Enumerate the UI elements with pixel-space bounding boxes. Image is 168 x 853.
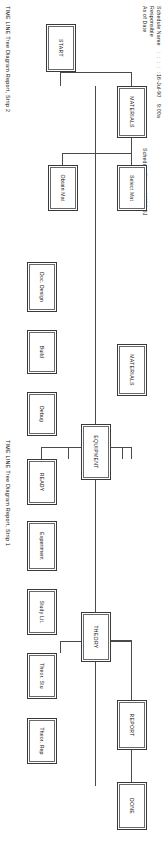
node-debug-label: Debug — [39, 406, 45, 422]
node-experiment[interactable]: Experiment — [27, 521, 57, 571]
connector-doc-design — [41, 447, 42, 459]
node-report-label: REPORT — [129, 713, 135, 736]
caption-strip-2: TIME LINE Tree Diagram Report, Strip 2 — [5, 6, 11, 112]
node-debug[interactable]: Debug — [27, 392, 57, 436]
connector-theor-rep — [60, 641, 61, 653]
node-theory-label: THEORY — [93, 625, 99, 648]
node-theor-rep[interactable]: Theor. Rep — [27, 718, 57, 764]
connector-materials-mid — [95, 396, 96, 410]
node-equipment-label: EQUIPMENT — [93, 435, 99, 468]
header-as-of-time-value: 9:00a — [155, 104, 162, 118]
connector-ready — [122, 447, 123, 459]
node-ready[interactable]: READY — [27, 459, 57, 505]
header-label-schedule-name: Schedule Name — [155, 6, 162, 46]
node-experiment-label: Experiment — [39, 532, 45, 560]
node-study-lit[interactable]: Study Lit. — [27, 589, 57, 635]
node-doc-design[interactable]: Doc. Design — [27, 262, 57, 312]
node-theory[interactable]: THEORY — [81, 612, 111, 662]
connector-materials-top-stub — [131, 72, 132, 86]
node-equipment[interactable]: EQUIPMENT — [81, 424, 111, 480]
header-label-responsible: Responsible — [148, 6, 155, 46]
connector-top-row-spine — [131, 640, 132, 686]
node-done[interactable]: DONE — [117, 782, 147, 830]
node-start[interactable]: START — [46, 24, 76, 72]
node-materials-mid-label: MATERIALS — [129, 354, 135, 386]
node-done-label: DONE — [129, 798, 135, 814]
header-dot-leaders: : : : : : — [155, 52, 162, 74]
connector-done — [131, 768, 132, 782]
node-materials-mid[interactable]: MATERIALS — [117, 344, 147, 396]
node-obtain-mat-label: Obtain Mat — [60, 175, 66, 202]
node-select-mat[interactable]: Select Mat — [117, 165, 147, 211]
node-study-lit-label: Study Lit. — [39, 600, 45, 623]
connector-theory — [95, 598, 96, 612]
connector-experiment — [131, 447, 132, 459]
node-theor-stu-label: Theor. Stu — [39, 663, 45, 689]
node-ready-label: READY — [39, 473, 45, 492]
node-start-label: START — [58, 39, 64, 57]
node-doc-design-label: Doc. Design — [39, 272, 45, 302]
connector-build — [68, 447, 69, 459]
node-build-label: Build — [39, 346, 45, 358]
connector-equipment — [95, 410, 96, 424]
node-select-mat-label: Select Mat — [129, 175, 135, 201]
connector-start-stub — [60, 72, 61, 86]
header-label-as-of-date: As of Date — [140, 6, 147, 46]
connector-obtain-mat — [62, 153, 63, 165]
node-theor-rep-label: Theor. Rep — [39, 727, 45, 754]
connector-materials-children-spine — [131, 138, 132, 154]
node-build[interactable]: Build — [27, 330, 57, 374]
connector-select-mat — [131, 153, 132, 165]
node-theor-stu[interactable]: Theor. Stu — [27, 653, 57, 699]
caption-strip-1: TIME LINE Tree Diagram Report, Strip 1 — [5, 440, 11, 546]
tree-diagram-report-page: Schedule Name Responsible As of Date : :… — [0, 0, 168, 853]
rotated-page-canvas: Schedule Name Responsible As of Date : :… — [0, 0, 168, 853]
header-as-of-date-value: 16-Jul-90 — [155, 74, 162, 97]
node-report[interactable]: REPORT — [117, 700, 147, 750]
connector-report — [131, 686, 132, 700]
node-obtain-mat[interactable]: Obtain Mat — [48, 165, 78, 211]
header-label-column: Schedule Name Responsible As of Date — [140, 6, 162, 46]
connector-materials-children-vert — [62, 153, 132, 154]
connector-start-to-materials — [60, 72, 132, 73]
node-materials-top-label: MATERIALS — [129, 96, 135, 128]
node-materials-top[interactable]: MATERIALS — [117, 86, 147, 138]
